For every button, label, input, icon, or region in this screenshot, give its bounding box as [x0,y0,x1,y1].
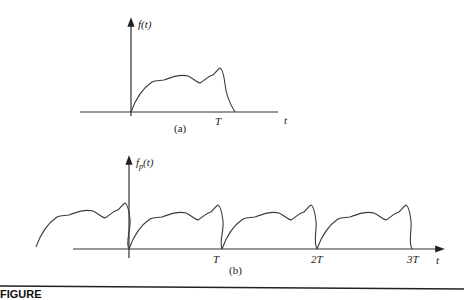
panel-a-x-label: t [284,114,288,126]
panel-b-sublabel: (b) [229,264,242,277]
panel-b-pulse-period-1 [222,205,317,249]
figure-caption-clipped: FIGURE [0,288,464,300]
panel-a-pulse-curve [131,68,235,112]
panel-b-tick-3T: 3T [406,253,420,265]
panel-a-sublabel: (a) [174,122,187,135]
panel-b-y-label: fp(t) [136,156,154,171]
panel-b-tick-2T: 2T [311,253,324,265]
panel-a: f(t) T t (a) [80,18,288,135]
panel-b-x-label: t [436,254,440,266]
panel-b: fp(t) T 2T 3T t (b) [36,156,440,277]
panel-a-y-label: f(t) [138,18,152,31]
panel-b-pulse-period-minus-1 [36,203,130,249]
panel-b-pulse-period-2 [317,205,412,249]
panel-b-pulse-period-0 [129,205,223,249]
panel-a-tick-T: T [215,115,222,127]
panel-b-tick-T: T [213,253,220,265]
